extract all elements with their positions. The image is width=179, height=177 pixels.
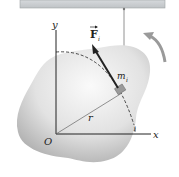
mass-label: m: [117, 71, 126, 81]
force-label: F: [90, 28, 98, 41]
force-subscript: i: [98, 35, 100, 42]
rigid-body: [17, 45, 150, 162]
x-axis-label: x: [153, 129, 159, 140]
y-axis-label: y: [51, 19, 58, 30]
ceiling-support: [20, 0, 165, 8]
rotation-arrow-icon: [150, 36, 165, 62]
origin-label: O: [44, 136, 52, 147]
mass-subscript: i: [126, 76, 128, 83]
rigid-body-diagram: y x O r m i F i 1: [0, 0, 179, 177]
angle-mark: 1: [133, 125, 137, 132]
